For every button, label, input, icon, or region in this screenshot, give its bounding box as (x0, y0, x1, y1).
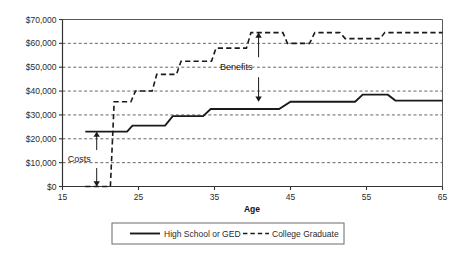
legend-label-college-graduate: College Graduate (272, 229, 339, 239)
chart-canvas: $0$10,000$20,000$30,000$40,000$50,000$60… (0, 0, 454, 255)
x-tick-label: 45 (286, 192, 296, 202)
x-axis-ticks: 152535455565 (58, 187, 448, 202)
series-line-high-school-or-ged (85, 95, 442, 132)
data-series (85, 33, 442, 187)
x-axis-title: Age (244, 204, 260, 214)
y-tick-label: $40,000 (26, 86, 57, 96)
y-tick-label: $60,000 (26, 38, 57, 48)
y-axis-ticks: $0$10,000$20,000$30,000$40,000$50,000$60… (26, 15, 63, 192)
chart-legend: High School or GEDCollege Graduate (112, 223, 344, 244)
plot-frame (63, 20, 443, 187)
y-tick-label: $70,000 (26, 15, 57, 25)
y-tick-label: $30,000 (26, 110, 57, 120)
x-tick-label: 65 (438, 192, 448, 202)
y-tick-label: $10,000 (26, 158, 57, 168)
x-tick-label: 15 (58, 192, 68, 202)
annotation-benefits-arrowhead-bottom (255, 97, 261, 102)
annotation-benefits-label: Benefits (220, 62, 253, 72)
annotation-costs-label: Costs (68, 154, 92, 164)
x-tick-label: 55 (362, 192, 372, 202)
x-tick-label: 35 (210, 192, 220, 202)
x-tick-label: 25 (134, 192, 144, 202)
y-tick-label: $0 (47, 182, 57, 192)
earnings-chart: $0$10,000$20,000$30,000$40,000$50,000$60… (0, 0, 454, 255)
y-tick-label: $20,000 (26, 134, 57, 144)
legend-label-high-school-or-ged: High School or GED (164, 229, 241, 239)
y-tick-label: $50,000 (26, 62, 57, 72)
